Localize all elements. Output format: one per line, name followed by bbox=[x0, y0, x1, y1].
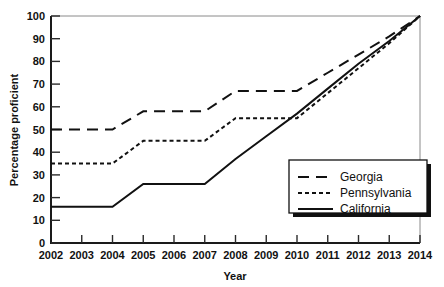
chart-legend: GeorgiaPennsylvaniaCalifornia bbox=[289, 160, 431, 217]
x-tick-label: 2003 bbox=[70, 249, 94, 261]
y-tick-label: 60 bbox=[33, 101, 45, 113]
x-tick-label: 2004 bbox=[100, 249, 125, 261]
x-tick-label: 2002 bbox=[39, 249, 63, 261]
x-tick-label: 2007 bbox=[193, 249, 217, 261]
x-tick-marks bbox=[82, 235, 420, 243]
x-axis-title: Year bbox=[223, 270, 247, 282]
y-axis-title: Percentage proficient bbox=[8, 73, 20, 186]
legend-label-pennsylvania: Pennsylvania bbox=[340, 186, 412, 200]
legend-label-california: California bbox=[340, 202, 391, 216]
chart-container: 0102030405060708090100 20022003200420052… bbox=[0, 0, 444, 287]
y-tick-label: 10 bbox=[33, 214, 45, 226]
y-tick-label: 70 bbox=[33, 78, 45, 90]
y-tick-label: 50 bbox=[33, 124, 45, 136]
y-tick-label: 100 bbox=[27, 10, 45, 22]
y-tick-label: 0 bbox=[39, 237, 45, 249]
legend-label-georgia: Georgia bbox=[340, 170, 383, 184]
line-chart: 0102030405060708090100 20022003200420052… bbox=[0, 0, 444, 287]
x-tick-label: 2011 bbox=[316, 249, 340, 261]
x-tick-label: 2014 bbox=[408, 249, 433, 261]
series-line-pennsylvania bbox=[51, 16, 420, 164]
x-tick-label: 2005 bbox=[131, 249, 155, 261]
x-tick-label: 2012 bbox=[346, 249, 370, 261]
x-tick-label: 2013 bbox=[377, 249, 401, 261]
y-tick-label: 90 bbox=[33, 33, 45, 45]
series-line-georgia bbox=[51, 16, 420, 130]
y-tick-label: 30 bbox=[33, 169, 45, 181]
y-tick-labels: 0102030405060708090100 bbox=[27, 10, 45, 249]
x-tick-label: 2009 bbox=[254, 249, 278, 261]
y-tick-label: 40 bbox=[33, 146, 45, 158]
x-tick-label: 2006 bbox=[162, 249, 186, 261]
x-tick-label: 2008 bbox=[223, 249, 247, 261]
x-tick-label: 2010 bbox=[285, 249, 309, 261]
y-tick-label: 80 bbox=[33, 55, 45, 67]
y-tick-label: 20 bbox=[33, 192, 45, 204]
x-tick-labels: 2002200320042005200620072008200920102011… bbox=[39, 249, 433, 261]
